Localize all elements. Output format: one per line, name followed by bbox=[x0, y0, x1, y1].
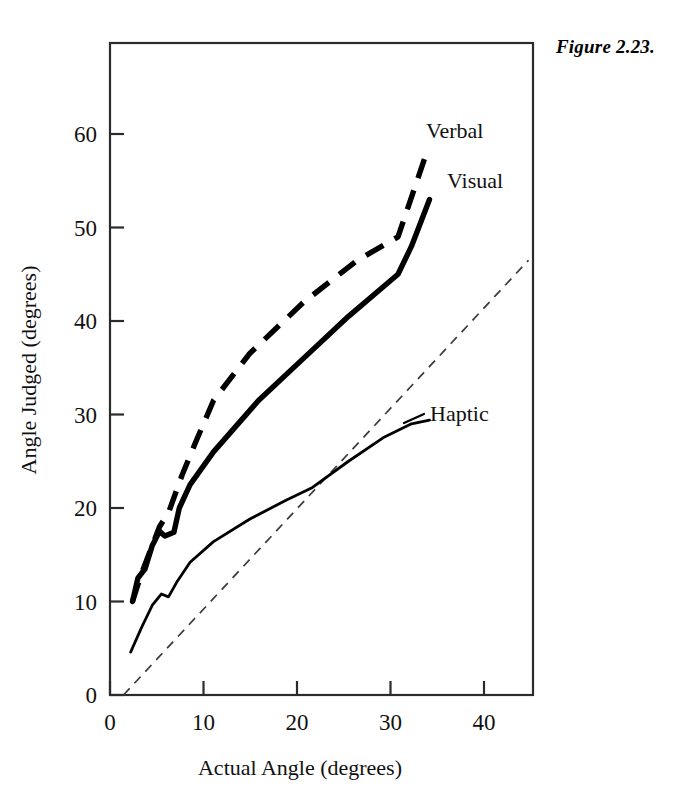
x-axis-ticks bbox=[110, 681, 484, 695]
y-tick-label-40: 40 bbox=[74, 309, 97, 334]
y-tick-label-50: 50 bbox=[74, 216, 97, 241]
x-tick-label-10: 10 bbox=[192, 710, 215, 735]
y-tick-label-10: 10 bbox=[74, 590, 97, 615]
y-tick-label-0: 0 bbox=[86, 683, 98, 708]
visual-curve bbox=[133, 199, 430, 601]
x-tick-label-0: 0 bbox=[104, 710, 116, 735]
y-axis-tick-labels: 0 10 20 30 40 50 60 bbox=[74, 122, 97, 708]
series-label-haptic: Haptic bbox=[430, 401, 489, 426]
x-tick-label-30: 30 bbox=[379, 710, 402, 735]
y-tick-label-60: 60 bbox=[74, 122, 97, 147]
x-tick-label-40: 40 bbox=[473, 710, 496, 735]
y-tick-label-20: 20 bbox=[74, 496, 97, 521]
series-label-visual: Visual bbox=[447, 168, 503, 193]
x-axis-title: Actual Angle (degrees) bbox=[198, 755, 402, 780]
figure-page: Figure 2.23. 0 10 20 30 40 50 60 bbox=[0, 0, 684, 798]
y-axis-title: Angle Judged (degrees) bbox=[16, 266, 41, 475]
angle-judgment-line-chart: 0 10 20 30 40 50 60 0 10 20 30 40 Actual… bbox=[0, 0, 684, 798]
x-axis-tick-labels: 0 10 20 30 40 bbox=[104, 710, 495, 735]
haptic-curve bbox=[131, 420, 430, 652]
y-tick-label-30: 30 bbox=[74, 403, 97, 428]
series-label-verbal: Verbal bbox=[426, 118, 483, 143]
x-tick-label-20: 20 bbox=[286, 710, 309, 735]
y-axis-ticks bbox=[110, 134, 124, 695]
